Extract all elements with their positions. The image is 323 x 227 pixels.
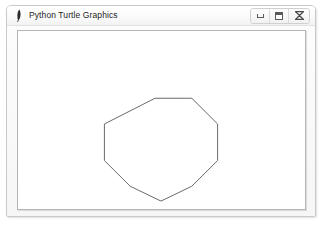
minimize-icon (257, 14, 264, 18)
close-icon (295, 11, 304, 20)
screenshot-root: Python Turtle Graphics (0, 0, 323, 227)
window-titlebar[interactable]: Python Turtle Graphics (7, 6, 315, 26)
turtle-graphics-window: Python Turtle Graphics (6, 5, 316, 217)
maximize-icon (275, 12, 283, 20)
turtle-pen-icon (13, 9, 24, 22)
turtle-canvas-area[interactable] (17, 30, 306, 210)
turtle-drawing-surface (18, 31, 305, 209)
close-button[interactable] (289, 9, 309, 23)
nonagon-path (104, 98, 217, 201)
maximize-button[interactable] (270, 9, 289, 23)
window-title: Python Turtle Graphics (29, 11, 250, 21)
window-controls (250, 8, 310, 24)
minimize-button[interactable] (251, 9, 270, 23)
